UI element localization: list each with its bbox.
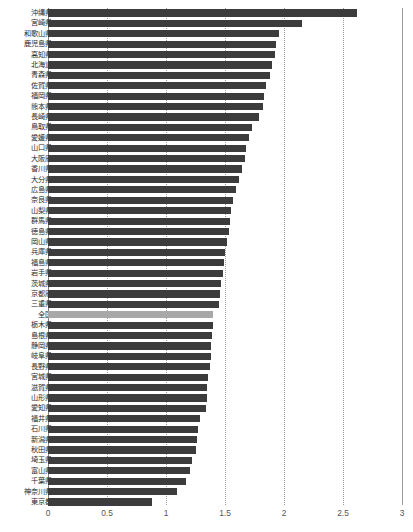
bar — [48, 72, 270, 79]
bar-row: 宮崎県 — [0, 18, 413, 28]
bar-row: 全国 — [0, 310, 413, 320]
category-label: 秋田県 — [0, 445, 52, 455]
bar-track — [48, 18, 402, 28]
category-label: 富山県 — [0, 466, 52, 476]
plot-area: 沖縄県宮崎県和歌山県鹿児島県高知県北海道青森県佐賀県福岡県熊本県長崎県鳥取県愛媛… — [0, 0, 413, 532]
bar — [48, 311, 213, 318]
bar-row: 静岡県 — [0, 341, 413, 351]
category-label: 佐賀県 — [0, 81, 52, 91]
bar — [48, 488, 177, 495]
bar-track — [48, 50, 402, 60]
bar — [48, 467, 190, 474]
category-label: 山梨県 — [0, 206, 52, 216]
bar — [48, 113, 259, 120]
bar-row: 和歌山県 — [0, 29, 413, 39]
category-label: 長野県 — [0, 362, 52, 372]
bar-track — [48, 383, 402, 393]
bar-track — [48, 237, 402, 247]
bar-track — [48, 331, 402, 341]
bar-track — [48, 372, 402, 382]
x-axis-tick-labels: 00.511.522.53 — [0, 508, 413, 524]
bar-track — [48, 351, 402, 361]
bar-row: 岩手県 — [0, 268, 413, 278]
x-tick-label: 3 — [400, 508, 405, 518]
bar-track — [48, 414, 402, 424]
category-label: 静岡県 — [0, 341, 52, 351]
bar-track — [48, 143, 402, 153]
bar-track — [48, 112, 402, 122]
bar-track — [48, 289, 402, 299]
category-label: 三重県 — [0, 299, 52, 309]
category-label: 和歌山県 — [0, 29, 52, 39]
bar — [48, 155, 245, 162]
category-label: 愛知県 — [0, 403, 52, 413]
bar — [48, 436, 197, 443]
bar — [48, 82, 266, 89]
bar — [48, 353, 211, 360]
bar — [48, 415, 200, 422]
x-tick-label: 2.5 — [337, 508, 349, 518]
bar — [48, 446, 196, 453]
bar-row: 熊本県 — [0, 102, 413, 112]
category-label: 茨城県 — [0, 279, 52, 289]
bar-track — [48, 476, 402, 486]
category-label: 山形県 — [0, 393, 52, 403]
x-tick-label: 0.5 — [101, 508, 113, 518]
bar-row: 京都府 — [0, 289, 413, 299]
bar — [48, 394, 207, 401]
category-label: 長崎県 — [0, 112, 52, 122]
category-label: 新潟県 — [0, 435, 52, 445]
category-label: 東京都 — [0, 497, 52, 507]
bar-row: 徳島県 — [0, 227, 413, 237]
bar-row: 神奈川県 — [0, 487, 413, 497]
category-label: 奈良県 — [0, 195, 52, 205]
bar-row: 青森県 — [0, 70, 413, 80]
bar-row: 広島県 — [0, 185, 413, 195]
category-label: 栃木県 — [0, 320, 52, 330]
category-label: 青森県 — [0, 70, 52, 80]
bar — [48, 498, 152, 505]
bar — [48, 228, 229, 235]
bar-track — [48, 424, 402, 434]
category-label: 埼玉県 — [0, 455, 52, 465]
bar-track — [48, 216, 402, 226]
bar — [48, 207, 231, 214]
bar — [48, 238, 227, 245]
category-label: 福井県 — [0, 414, 52, 424]
bar-row: 岡山県 — [0, 237, 413, 247]
category-label: 福岡県 — [0, 91, 52, 101]
bar — [48, 374, 208, 381]
bar-row: 群馬県 — [0, 216, 413, 226]
bar-row: 愛媛県 — [0, 133, 413, 143]
bar-row: 島根県 — [0, 331, 413, 341]
bar-track — [48, 403, 402, 413]
bar-track — [48, 60, 402, 70]
bar-track — [48, 247, 402, 257]
bar — [48, 280, 221, 287]
bar-row: 埼玉県 — [0, 455, 413, 465]
bar-track — [48, 279, 402, 289]
bar-track — [48, 39, 402, 49]
category-label: 島根県 — [0, 331, 52, 341]
bar — [48, 342, 211, 349]
bar — [48, 218, 230, 225]
bar-row: 奈良県 — [0, 195, 413, 205]
bar — [48, 290, 220, 297]
bar-row: 山口県 — [0, 143, 413, 153]
bar-row: 鳥取県 — [0, 122, 413, 132]
bar-track — [48, 320, 402, 330]
bar — [48, 301, 219, 308]
bar-row: 福岡県 — [0, 91, 413, 101]
bar-chart: 沖縄県宮崎県和歌山県鹿児島県高知県北海道青森県佐賀県福岡県熊本県長崎県鳥取県愛媛… — [0, 0, 413, 532]
bar-track — [48, 91, 402, 101]
bar — [48, 363, 210, 370]
bar-row: 千葉県 — [0, 476, 413, 486]
bar-track — [48, 8, 402, 18]
bar-row: 東京都 — [0, 497, 413, 507]
category-label: 全国 — [0, 310, 52, 320]
category-label: 愛媛県 — [0, 133, 52, 143]
x-tick-label: 2 — [282, 508, 287, 518]
bar — [48, 186, 236, 193]
bar-track — [48, 185, 402, 195]
bar — [48, 30, 279, 37]
